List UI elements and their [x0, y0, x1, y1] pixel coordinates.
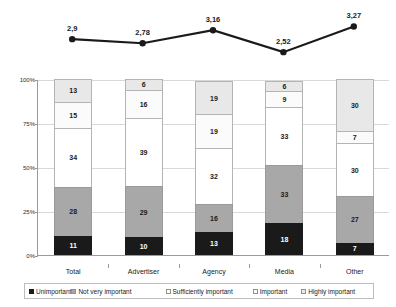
bar-segment-value: 13: [210, 240, 218, 247]
bar-segment[interactable]: 28: [54, 187, 92, 236]
chart-legend: UnimportantNot very importantSufficientl…: [24, 283, 374, 299]
line-marker[interactable]: [69, 36, 75, 42]
plot-area: 0%25%50%75%100% 112834151310293916613163…: [37, 80, 389, 256]
bar-segment-value: 30: [351, 167, 359, 174]
bar-total[interactable]: 1128341513: [54, 79, 92, 255]
legend-item[interactable]: Unimportant: [29, 288, 71, 295]
bar-segment[interactable]: 13: [54, 79, 92, 102]
y-tick-label: 75%: [23, 121, 35, 127]
line-marker[interactable]: [139, 40, 145, 46]
bar-segment[interactable]: 33: [265, 165, 303, 223]
legend-item[interactable]: Sufficiently important: [166, 288, 233, 295]
legend-swatch: [253, 289, 258, 294]
y-tick-mark: [35, 80, 38, 81]
legend-swatch: [166, 289, 171, 294]
bar-segment[interactable]: 32: [195, 148, 233, 204]
bar-media[interactable]: 18333396: [265, 79, 303, 255]
bar-segment-value: 32: [210, 173, 218, 180]
line-value-label: 3,16: [206, 15, 221, 24]
bar-segment[interactable]: 27: [336, 196, 374, 243]
bar-segment-value: 27: [351, 216, 359, 223]
mean-score-markers: [69, 23, 357, 55]
legend-label: Sufficiently important: [173, 288, 233, 295]
bar-segment-value: 28: [69, 208, 77, 215]
bar-segment[interactable]: 19: [195, 114, 233, 147]
bar-segment[interactable]: 9: [265, 91, 303, 107]
bar-segment-value: 9: [282, 96, 286, 103]
legend-label: Not very important: [78, 288, 131, 295]
x-tick-mark: [179, 264, 180, 268]
bar-segment-value: 18: [280, 236, 288, 243]
bar-segment[interactable]: 30: [336, 143, 374, 195]
line-marker[interactable]: [351, 23, 357, 29]
y-tick-label: 25%: [23, 209, 35, 215]
legend-label: Important: [260, 288, 287, 295]
y-tick-mark: [35, 256, 38, 257]
bar-agency[interactable]: 1316321919: [195, 79, 233, 255]
bar-segment-value: 11: [69, 242, 76, 249]
y-tick-label: 50%: [23, 165, 35, 171]
bar-segment[interactable]: 11: [54, 236, 92, 255]
bar-segment[interactable]: 7: [336, 243, 374, 255]
bar-segment[interactable]: 19: [195, 81, 233, 114]
x-tick-mark: [320, 264, 321, 268]
bar-segment[interactable]: 7: [336, 131, 374, 143]
y-tick-label: 0%: [26, 253, 35, 259]
y-tick-mark: [35, 212, 38, 213]
legend-item[interactable]: Highly important: [301, 288, 355, 295]
bar-advertiser[interactable]: 102939166: [125, 79, 163, 255]
bar-segment[interactable]: 13: [195, 232, 233, 255]
bar-segment[interactable]: 6: [265, 81, 303, 92]
bar-segment[interactable]: 18: [265, 223, 303, 255]
y-tick-mark: [35, 124, 38, 125]
bar-segment-value: 16: [140, 101, 148, 108]
x-tick-mark: [249, 264, 250, 268]
bar-segment-value: 30: [351, 102, 359, 109]
x-tick-mark: [108, 264, 109, 268]
x-axis-label-other: Other: [346, 268, 364, 275]
bar-segment-value: 29: [140, 209, 148, 216]
bar-segment[interactable]: 15: [54, 102, 92, 128]
bar-segment-value: 19: [210, 128, 218, 135]
x-axis-label-agency: Agency: [202, 268, 225, 275]
bar-segment-value: 15: [69, 112, 77, 119]
bar-segment-value: 34: [69, 154, 77, 161]
bar-segment[interactable]: 10: [125, 237, 163, 255]
legend-swatch: [71, 289, 76, 294]
line-value-label: 2,9: [67, 24, 77, 33]
line-value-label: 2,78: [135, 28, 150, 37]
y-tick-label: 100%: [20, 77, 35, 83]
bar-segment[interactable]: 6: [125, 79, 163, 90]
bar-other[interactable]: 72730730: [336, 79, 374, 255]
line-value-label: 2,52: [276, 37, 291, 46]
bar-segment-value: 7: [353, 245, 357, 252]
bar-segment-value: 6: [282, 83, 286, 90]
legend-label: Highly important: [308, 288, 355, 295]
bar-segment-value: 13: [69, 87, 77, 94]
bar-segment-value: 33: [280, 133, 288, 140]
x-axis-label-total: Total: [66, 268, 81, 275]
chart-figure: 2,92,783,162,523,27 0%25%50%75%100% 1128…: [0, 0, 396, 307]
legend-label: Unimportant: [36, 288, 71, 295]
line-marker[interactable]: [280, 49, 286, 55]
line-marker[interactable]: [210, 27, 216, 33]
legend-swatch: [29, 289, 34, 294]
bar-segment[interactable]: 39: [125, 118, 163, 187]
bar-segment[interactable]: 29: [125, 186, 163, 237]
bar-segment[interactable]: 16: [195, 204, 233, 232]
bar-segment-value: 6: [142, 81, 146, 88]
bar-segment-value: 19: [210, 95, 218, 102]
bar-segment[interactable]: 16: [125, 90, 163, 118]
x-axis-label-media: Media: [275, 268, 294, 275]
legend-item[interactable]: Not very important: [71, 288, 131, 295]
line-value-label: 3,27: [346, 11, 361, 20]
bar-segment[interactable]: 30: [336, 79, 374, 131]
bar-segment[interactable]: 34: [54, 128, 92, 187]
legend-item[interactable]: Important: [253, 288, 287, 295]
stacked-bar-chart: 0%25%50%75%100% 112834151310293916613163…: [0, 72, 396, 307]
bar-segment[interactable]: 33: [265, 107, 303, 165]
bar-segment-value: 33: [280, 191, 288, 198]
mean-score-line-chart: 2,92,783,162,523,27: [0, 0, 396, 72]
bar-segment-value: 7: [353, 134, 357, 141]
legend-swatch: [301, 289, 306, 294]
